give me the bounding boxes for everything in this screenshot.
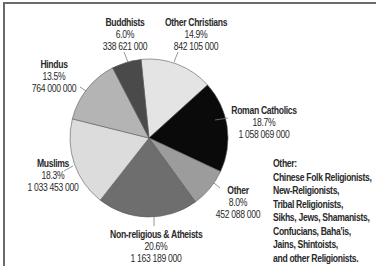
note-line: Confucians, Baha'is,	[273, 225, 372, 239]
pie-slices	[70, 59, 228, 217]
label-name: Other	[209, 184, 266, 196]
label-name: Other Christians	[165, 16, 227, 28]
label-percent: 20.6%	[110, 240, 202, 252]
label-percent: 14.9%	[165, 28, 227, 40]
label-roman-catholics: Roman Catholics 18.7% 1 058 069 000	[230, 104, 299, 140]
note-line: Sikhs, Jews, Shamanists,	[273, 211, 372, 225]
label-value: 1 163 189 000	[110, 252, 202, 264]
label-value: 1 033 453 000	[19, 181, 86, 193]
label-value: 338 621 000	[100, 40, 149, 52]
label-value: 842 105 000	[165, 40, 227, 52]
label-percent: 6.0%	[100, 28, 149, 40]
label-non-religious: Non-religious & Atheists 20.6% 1 163 189…	[110, 228, 202, 264]
label-buddhists: Buddhists 6.0% 338 621 000	[100, 16, 149, 52]
note-line: Jains, Shintoists,	[273, 238, 372, 252]
note-line: Chinese Folk Religionists,	[273, 171, 372, 185]
note-line: New-Religionists,	[273, 184, 372, 198]
label-percent: 18.3%	[19, 169, 86, 181]
note-line: Tribal Religionists,	[273, 198, 372, 212]
label-name: Buddhists	[100, 16, 149, 28]
leader-buddhists	[124, 52, 128, 62]
label-name: Roman Catholics	[230, 104, 299, 116]
label-percent: 13.5%	[26, 70, 82, 82]
label-hindus: Hindus 13.5% 764 000 000	[26, 58, 82, 94]
label-value: 764 000 000	[26, 82, 82, 94]
label-other-christians: Other Christians 14.9% 842 105 000	[165, 16, 227, 52]
note-line: and other Religionists.	[273, 252, 372, 266]
other-religions-note: Other: Chinese Folk Religionists, New-Re…	[273, 157, 372, 265]
label-muslims: Muslims 18.3% 1 033 453 000	[19, 157, 86, 193]
label-name: Muslims	[19, 157, 86, 169]
label-value: 452 088 000	[209, 208, 266, 220]
label-other: Other 8.0% 452 088 000	[209, 184, 266, 220]
label-value: 1 058 069 000	[230, 128, 299, 140]
label-percent: 8.0%	[209, 196, 266, 208]
label-percent: 18.7%	[230, 116, 299, 128]
note-title: Other:	[273, 157, 372, 171]
leader-other-christians	[174, 52, 178, 62]
label-name: Non-religious & Atheists	[110, 228, 202, 240]
label-name: Hindus	[26, 58, 82, 70]
